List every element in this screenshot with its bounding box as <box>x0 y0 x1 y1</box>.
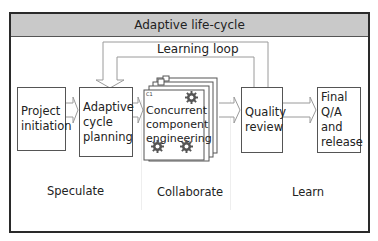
box-label: Quality <box>245 105 286 120</box>
concurrent-component-engineering-box: Concurrent component engineering <box>145 105 203 145</box>
box-label: initiation <box>21 119 71 134</box>
svg-text:C1: C1 <box>146 91 153 97</box>
gear-icon <box>151 140 164 153</box>
box-label: Final <box>321 90 363 105</box>
box-label: Q/A and <box>321 105 363 135</box>
final-qa-release-box: Final Q/A and release <box>317 87 361 153</box>
box-label: component <box>146 118 212 132</box>
adaptive-cycle-planning-box: Adaptive cycle planning <box>79 87 133 157</box>
learning-loop-label: Learning loop <box>157 42 239 56</box>
quality-review-box: Quality review <box>241 87 283 153</box>
box-label: cycle <box>83 115 134 130</box>
box-label: Project <box>21 104 71 119</box>
box-label: planning <box>83 130 134 145</box>
gear-icon <box>180 140 193 153</box>
phase-speculate: Speculate <box>47 184 104 198</box>
box-label: Concurrent <box>146 104 212 118</box>
box-label: Adaptive <box>83 100 134 115</box>
project-initiation-box: Project initiation <box>17 87 66 151</box>
gear-icon <box>185 91 198 104</box>
box-label: release <box>321 135 363 150</box>
phase-learn: Learn <box>292 185 324 199</box>
phase-collaborate: Collaborate <box>157 185 223 199</box>
box-label: review <box>245 120 286 135</box>
